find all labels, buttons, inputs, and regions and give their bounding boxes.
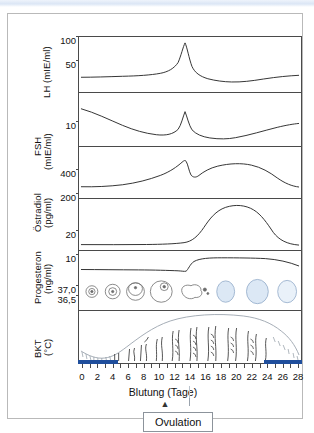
figure-frame: LH (mIE/ml) FSH (mIE/ml) Östradiol (pg/m… (7, 13, 303, 419)
x-tick (120, 364, 121, 368)
x-tick (136, 364, 137, 368)
panel-lh (79, 37, 301, 93)
x-tick (113, 364, 114, 368)
curve-progesteron (81, 205, 299, 245)
x-tick (283, 364, 284, 368)
curve-fsh (81, 109, 299, 139)
ytick-lh-100: 100 (60, 36, 76, 45)
x-tick (151, 364, 152, 368)
x-tick (205, 364, 206, 368)
x-tick (267, 364, 268, 368)
x-tick (167, 364, 168, 368)
gland-lumina (175, 334, 253, 357)
ytick-p-20: 20 (65, 230, 76, 239)
x-tick (190, 364, 191, 368)
panel-endometrium (79, 311, 301, 363)
x-tick (198, 364, 199, 368)
x-tick (260, 364, 261, 368)
curve-oestradiol (81, 161, 299, 187)
ytick-fsh-10: 10 (65, 121, 76, 130)
primordial-follicle-icon (86, 286, 98, 298)
ruptured-follicle-icon (182, 285, 209, 299)
curve-bkt (81, 258, 299, 272)
x-tick-label: 10 (154, 371, 165, 382)
x-tick-label: 16 (200, 371, 211, 382)
x-tick (175, 364, 176, 368)
panel-follicle-stages (79, 277, 301, 311)
secondary-follicle-icon (127, 283, 145, 300)
x-tick-label: 22 (246, 371, 257, 382)
x-tick (244, 364, 245, 368)
ytick-bkt-365: 36,5 (58, 295, 77, 304)
x-axis-tick-labels: 0246810121416182022242628 (68, 371, 312, 385)
x-tick (236, 364, 237, 368)
x-tick (82, 364, 83, 368)
x-tick-label: 0 (79, 371, 84, 382)
x-tick (298, 364, 299, 368)
x-tick-label: 20 (231, 371, 242, 382)
ytick-p-10: 10 (65, 254, 76, 263)
y-tick-label-column: 100 50 10 400 200 20 10 37,0 36,5 (52, 36, 78, 364)
panel-oestradiol (79, 147, 301, 199)
corpus-luteum-early-icon (217, 281, 235, 302)
ytick-lh-50: 50 (65, 60, 76, 69)
x-tick (128, 364, 129, 368)
x-tick (105, 364, 106, 368)
ytick-e2-200: 200 (60, 193, 76, 202)
ovulation-annotation-box: Ovulation (143, 412, 213, 432)
chart-plot-area (78, 36, 302, 364)
corpus-albicans-icon (278, 280, 297, 302)
x-tick (252, 364, 253, 368)
panel-progesteron (79, 199, 301, 251)
x-tick (275, 364, 276, 368)
endometrial-glands (115, 326, 267, 361)
x-tick-label: 26 (277, 371, 288, 382)
x-tick-label: 6 (126, 371, 131, 382)
ytick-bkt-370: 37,0 (58, 285, 77, 294)
x-tick (182, 364, 183, 368)
graafian-follicle-icon (150, 281, 172, 302)
x-tick (97, 364, 98, 368)
curve-lh (81, 43, 299, 82)
x-tick-label: 12 (169, 371, 180, 382)
x-axis-title: Blutung (Tage) (15, 386, 311, 398)
panel-bkt (79, 251, 301, 277)
ovulation-arrow-icon: ▲ (8, 400, 314, 408)
endometrium-shedding-right (273, 337, 298, 360)
x-tick (159, 364, 160, 368)
x-tick (90, 364, 91, 368)
panel-fsh (79, 93, 301, 147)
x-tick-label: 18 (216, 371, 227, 382)
x-tick-label: 14 (185, 371, 196, 382)
ovulation-connector (189, 386, 190, 398)
corpus-luteum-mature-icon (246, 279, 268, 303)
x-tick (221, 364, 222, 368)
x-tick-label: 2 (95, 371, 100, 382)
x-tick-label: 28 (293, 371, 304, 382)
x-tick (229, 364, 230, 368)
x-tick-label: 4 (110, 371, 115, 382)
x-tick-label: 24 (262, 371, 273, 382)
x-tick (144, 364, 145, 368)
x-tick (290, 364, 291, 368)
x-tick-label: 8 (141, 371, 146, 382)
primary-follicle-icon (105, 284, 120, 299)
ytick-e2-400: 400 (60, 169, 76, 178)
x-tick (213, 364, 214, 368)
